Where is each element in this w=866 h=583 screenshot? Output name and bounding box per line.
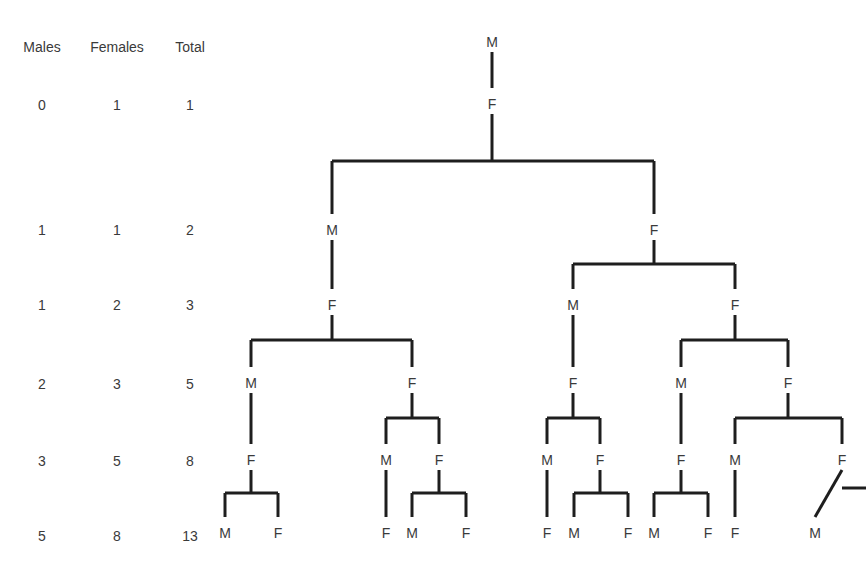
- node-male: M: [648, 525, 660, 541]
- node-female: F: [488, 96, 497, 112]
- node-female: F: [274, 525, 283, 541]
- node-male: M: [326, 222, 338, 238]
- node-female: F: [596, 452, 605, 468]
- node-female: F: [650, 222, 659, 238]
- node-female: F: [704, 525, 713, 541]
- node-female: F: [784, 375, 793, 391]
- node-female: F: [838, 452, 847, 468]
- node-male: M: [219, 525, 231, 541]
- node-female: F: [569, 375, 578, 391]
- node-female: F: [624, 525, 633, 541]
- node-male: M: [486, 34, 498, 50]
- tree-edge: [815, 470, 842, 517]
- node-male: M: [568, 525, 580, 541]
- node-male: M: [809, 525, 821, 541]
- node-male: M: [541, 452, 553, 468]
- node-female: F: [408, 375, 417, 391]
- node-female: F: [382, 525, 391, 541]
- node-male: M: [567, 297, 579, 313]
- node-female: F: [731, 525, 740, 541]
- node-female: F: [543, 525, 552, 541]
- node-female: F: [462, 525, 471, 541]
- node-female: F: [328, 297, 337, 313]
- family-tree-diagram: MFMFFMFMFFMFFMFMFFMFMFFMFFMFMFFM: [0, 0, 866, 583]
- node-male: M: [675, 375, 687, 391]
- node-male: M: [380, 452, 392, 468]
- node-male: M: [245, 375, 257, 391]
- node-female: F: [677, 452, 686, 468]
- node-male: M: [729, 452, 741, 468]
- node-female: F: [247, 452, 256, 468]
- node-male: M: [406, 525, 418, 541]
- node-female: F: [731, 297, 740, 313]
- node-female: F: [435, 452, 444, 468]
